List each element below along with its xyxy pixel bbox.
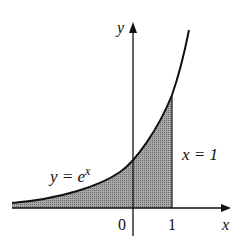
diagram: y x 0 1 y = ex x = 1: [0, 0, 244, 244]
y-axis-arrow-icon: [129, 22, 137, 33]
tick-label-0: 0: [118, 216, 126, 233]
curve-label: y = ex: [48, 164, 91, 186]
line-label: x = 1: [181, 145, 218, 164]
shaded-area: [12, 95, 172, 208]
x-axis-label: x: [221, 216, 229, 233]
tick-label-1: 1: [168, 216, 176, 233]
y-axis-label: y: [115, 19, 125, 37]
x-axis-arrow-icon: [221, 204, 231, 212]
